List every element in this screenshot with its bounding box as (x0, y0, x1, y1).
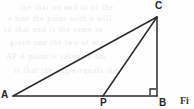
segment-ac (13, 17, 157, 96)
vertex-label-a: A (1, 90, 8, 100)
segment-pc-cevian (103, 17, 157, 96)
vertex-label-c: C (155, 1, 162, 11)
vertex-label-b: B (159, 98, 166, 108)
right-angle-marker-at-b (150, 89, 156, 95)
figure-caption-fragment: Fi (180, 96, 189, 106)
triangle-segments (13, 17, 157, 96)
vertex-label-p: P (100, 98, 107, 108)
triangle-diagram-canvas (0, 0, 194, 109)
geometry-figure: the that on and to of the a line the poi… (0, 0, 194, 109)
